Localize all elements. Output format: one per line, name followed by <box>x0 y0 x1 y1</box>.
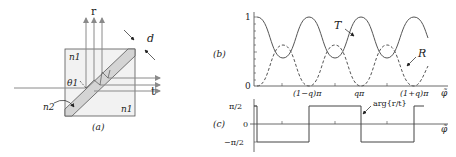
thickness-label: d <box>147 32 154 45</box>
b-xtick-1: (1−q)π <box>293 89 322 98</box>
angle-label: θ1 <box>67 78 78 88</box>
panel-c-caption: (c) <box>213 119 226 129</box>
n2-label: n2 <box>43 102 55 112</box>
panel-b-caption: (b) <box>213 49 226 59</box>
T-curve <box>257 17 428 58</box>
arg-label: arg{r/t} <box>373 99 407 108</box>
c-ytick-pi2: π/2 <box>229 102 242 111</box>
c-ytick-0: 0 <box>243 120 248 129</box>
b-ytick-0: 0 <box>245 81 251 91</box>
transmitted-label: t <box>151 85 156 98</box>
b-x-axis-label: φ̃ <box>441 88 448 98</box>
thickness-arrow-left <box>124 30 134 40</box>
figure: r t d θ1 n1 n1 n2 (a) T R 1 0 (1−q)π qπ <box>0 0 456 157</box>
T-pointer <box>345 29 354 36</box>
panel-c-chart: arg{r/t} π/2 0 −π/2 φ̃ (c) <box>213 99 448 152</box>
thickness-arrow-right <box>145 50 155 60</box>
c-ytick-neg-pi2: −π/2 <box>224 138 244 147</box>
panel-b-chart: T R 1 0 (1−q)π qπ (1+q)π φ̃ (b) <box>213 12 448 98</box>
b-ytick-1: 1 <box>245 12 251 22</box>
R-pointer <box>407 57 416 66</box>
n1-top-label: n1 <box>69 52 81 62</box>
b-xtick-3: (1+q)π <box>400 89 429 98</box>
arg-pointer <box>363 106 371 114</box>
reflected-label: r <box>91 5 97 18</box>
panel-a-caption: (a) <box>92 122 105 132</box>
c-x-axis-label: φ̃ <box>441 124 448 134</box>
panel-a-beam-splitter: r t d θ1 n1 n1 n2 (a) <box>14 5 160 132</box>
T-label: T <box>334 19 343 32</box>
b-xtick-2: qπ <box>354 89 365 98</box>
n1-bottom-label: n1 <box>121 104 133 114</box>
R-label: R <box>417 47 426 60</box>
